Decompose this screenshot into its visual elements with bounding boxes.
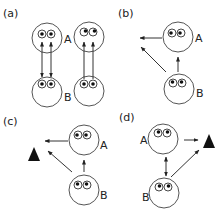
object-triangle-icon — [203, 134, 215, 148]
node-label-a: A — [195, 32, 203, 45]
node-label-a: A — [64, 33, 72, 46]
agent-a — [163, 22, 193, 52]
arrow-b-upper-left — [141, 47, 166, 72]
node-label-b: B — [64, 91, 72, 104]
arrow-b-to-object — [171, 150, 199, 177]
agent-a — [148, 124, 178, 154]
agent-a-right — [74, 22, 104, 52]
object-triangle-icon — [28, 147, 40, 161]
agent-b — [164, 74, 194, 104]
panel-d: (d) A B — [119, 111, 215, 208]
node-label-b: B — [100, 189, 108, 202]
gaze-diagram-figure: (a) A B — [0, 0, 222, 217]
node-label-b: B — [142, 191, 150, 204]
agent-b — [69, 175, 99, 205]
node-label-a: A — [140, 134, 148, 147]
panel-label-d: (d) — [119, 111, 135, 124]
panel-a: (a) A B — [3, 7, 104, 107]
arrow-b-to-object — [48, 151, 72, 172]
node-label-b: B — [196, 87, 204, 100]
agent-b-left — [32, 77, 62, 107]
panel-label-c: (c) — [3, 115, 18, 128]
panel-label-b: (b) — [118, 7, 134, 20]
agent-a-left — [32, 23, 62, 53]
panel-b: (b) A B — [118, 7, 204, 104]
panel-c: (c) A B — [3, 115, 108, 205]
node-label-a: A — [100, 139, 108, 152]
agent-b — [149, 178, 179, 208]
agent-b-right — [74, 76, 104, 106]
agent-a — [69, 125, 99, 155]
panel-label-a: (a) — [3, 7, 18, 20]
